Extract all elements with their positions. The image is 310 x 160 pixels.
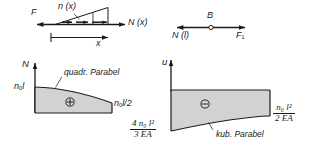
displacement-chart-graphics [171,60,270,131]
N-axis-label: N [22,59,29,69]
force-N-of-l-label: N (l) [172,31,189,40]
N-plus-sign-marker [66,98,74,106]
force-F-label: F [31,8,37,17]
u-fraction-right-denominator: 2 EA [273,114,295,123]
force-F1-label: F1 [236,31,245,41]
N-end-rest: l/2 [122,98,132,108]
u-area-fill [171,90,270,131]
point-b-node [209,25,213,29]
force-F1-subscript: 1 [242,34,245,40]
N-start-rest: l [22,81,24,91]
N-start-value-label: n0l [14,82,24,92]
u-axis-label: u [162,57,167,67]
load-n-of-x-label: n (x) [58,2,76,11]
point-b-group [177,25,245,29]
quadr-parabel-label: quadr. Parabel [64,68,119,77]
N-fraction-numerator: 4 n₀ l² [130,119,156,128]
u-fraction-right-value: n₀ l² 2 EA [273,103,295,124]
bar-axis-group [37,8,125,38]
internal-force-N-of-x-label: N (x) [128,18,148,27]
u-fraction-right-numerator: n₀ l² [273,103,295,112]
point-B-label: B [207,11,213,20]
N-fraction-denominator: 3 EA [130,130,156,139]
kub-parabel-label: kub. Parabel [216,130,264,139]
N-curve-label-leader [56,77,63,88]
N-end-value-label: n0l/2 [114,99,132,109]
x-dimension-label: x [96,39,101,48]
figure-canvas: F n (x) N (x) x B N (l) F1 N quadr. Para… [0,0,310,160]
N-fraction-value: 4 n₀ l² 3 EA [130,119,156,140]
